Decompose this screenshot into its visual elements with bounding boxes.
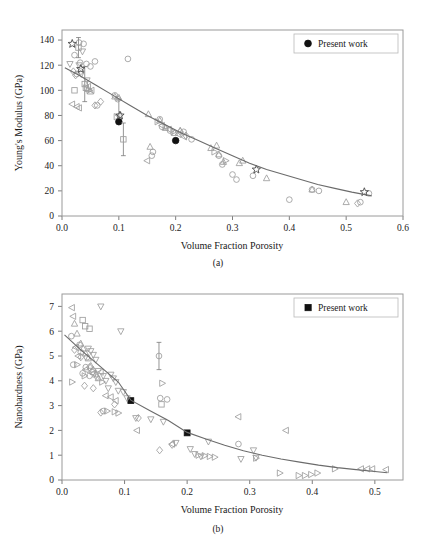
data-point-triangle-left — [358, 466, 364, 472]
y-tick-label: 100 — [40, 86, 55, 96]
panel-a-tick-labels: 0.00.10.20.30.40.50.6020406080100120140 — [40, 35, 409, 233]
data-point-triangle-right — [302, 472, 308, 478]
panel-b-frame — [62, 294, 403, 480]
data-point-triangle-right — [105, 408, 111, 414]
y-tick-label: 40 — [45, 161, 55, 171]
data-point-circle — [316, 188, 322, 194]
panel-b-legend-marker-filled-square — [305, 305, 311, 311]
panel-b-legend-label: Present work — [318, 303, 368, 313]
panel-b-subcaption: (b) — [212, 524, 223, 535]
y-tick-label: 0 — [49, 211, 54, 221]
panel-a-data-layer — [67, 38, 372, 207]
figure-container: 0.00.10.20.30.40.50.6020406080100120140 … — [0, 0, 436, 543]
data-point-triangle-up — [74, 330, 80, 336]
y-tick-label: 20 — [45, 186, 55, 196]
x-tick-label: 0.2 — [170, 223, 182, 233]
panel-b-plot-area: 0.00.10.20.30.40.501234567 Volume Fracti… — [0, 272, 436, 543]
y-tick-label: 60 — [45, 136, 55, 146]
data-point-triangle-down — [148, 417, 154, 423]
data-point-circle — [70, 362, 76, 368]
data-point-triangle-right — [70, 379, 76, 385]
data-point-triangle-right — [160, 380, 166, 386]
x-tick-label: 0.5 — [369, 487, 381, 497]
data-point-triangle-down — [67, 62, 73, 68]
x-tick-label: 0.0 — [56, 223, 68, 233]
data-point-star — [116, 111, 124, 119]
panel-a-x-axis-title: Volume Fraction Porosity — [181, 240, 284, 251]
y-tick-label: 1 — [49, 451, 54, 461]
data-point-triangle-right — [196, 452, 202, 458]
panel-a-subcaption: (a) — [213, 258, 224, 269]
y-tick-label: 140 — [40, 35, 55, 45]
data-point-diamond — [82, 382, 88, 389]
panel-b-data-layer — [69, 304, 389, 479]
panel-b-x-axis-title: Volume Fraction Porosity — [181, 504, 284, 515]
data-point-triangle-left — [75, 353, 81, 359]
panel-a-ticks — [58, 40, 403, 220]
data-point-triangle-right — [112, 409, 118, 415]
y-tick-label: 0 — [49, 475, 54, 485]
data-point-triangle-down — [79, 49, 85, 55]
x-tick-label: 0.4 — [306, 487, 318, 497]
data-point-triangle-down — [160, 419, 166, 425]
data-point-triangle-right — [100, 379, 106, 385]
data-point-triangle-right — [277, 470, 283, 476]
data-point-circle — [286, 197, 292, 203]
data-point-diamond — [98, 98, 104, 105]
data-point-circle — [234, 177, 240, 183]
panel-a-frame — [62, 30, 403, 216]
data-point-triangle-left — [69, 304, 75, 310]
panel-a-plot-area: 0.00.10.20.30.40.50.6020406080100120140 … — [0, 0, 436, 272]
data-point-circle — [125, 56, 131, 62]
data-point-square — [159, 402, 164, 407]
data-point-circle — [236, 441, 242, 447]
panel-a-legend-marker-filled-circle — [305, 40, 312, 47]
data-point-diamond — [90, 385, 96, 392]
y-tick-label: 120 — [40, 61, 55, 71]
panel-a-youngs-modulus: 0.00.10.20.30.40.50.6020406080100120140 … — [0, 0, 436, 272]
panel-a-legend: Present work — [294, 34, 398, 53]
data-point-circle — [92, 59, 98, 65]
data-point-square — [80, 317, 85, 322]
x-tick-label: 0.6 — [397, 223, 409, 233]
panel-b-legend: Present work — [294, 298, 398, 317]
panel-b-y-axis-title: Nanohardness (GPa) — [13, 345, 25, 428]
y-tick-label: 4 — [49, 376, 54, 386]
y-tick-label: 3 — [49, 401, 54, 411]
data-point-square — [72, 88, 77, 93]
data-point-triangle-up — [263, 175, 269, 181]
x-tick-label: 0.1 — [113, 223, 125, 233]
data-point-circle — [216, 153, 222, 159]
data-point-triangle-left — [283, 427, 289, 433]
data-point-circle — [72, 52, 78, 58]
data-point-triangle-down — [98, 304, 104, 310]
panel-b-fit-curve — [65, 335, 388, 473]
data-point-triangle-left — [235, 414, 241, 420]
data-point-triangle-up — [309, 186, 315, 192]
x-tick-label: 0.4 — [283, 223, 295, 233]
x-tick-label: 0.2 — [181, 487, 193, 497]
x-tick-label: 0.1 — [119, 487, 131, 497]
data-point-triangle-down — [118, 329, 124, 335]
data-point-triangle-right — [315, 470, 321, 476]
panel-a-svg: 0.00.10.20.30.40.50.6020406080100120140 … — [0, 0, 436, 272]
data-point-triangle-left — [134, 427, 140, 433]
x-tick-label: 0.5 — [340, 223, 352, 233]
y-tick-label: 5 — [49, 351, 54, 361]
panel-a-fit-curve — [65, 68, 372, 196]
data-point-triangle-down — [238, 457, 244, 463]
data-point-circle — [250, 173, 256, 179]
data-point-triangle-left — [383, 466, 389, 472]
panel-b-svg: 0.00.10.20.30.40.501234567 Volume Fracti… — [0, 272, 436, 543]
data-point-triangle-left — [70, 313, 76, 319]
data-point-circle — [164, 397, 170, 403]
data-point-triangle-right — [296, 472, 302, 478]
data-point-triangle-left — [102, 393, 108, 399]
data-point-circle — [230, 172, 236, 178]
data-point-triangle-up — [71, 320, 77, 326]
y-tick-label: 6 — [49, 327, 54, 337]
y-tick-label: 7 — [49, 302, 54, 312]
panel-b-nanohardness: 0.00.10.20.30.40.501234567 Volume Fracti… — [0, 272, 436, 543]
data-point-star — [68, 39, 76, 47]
present-work-point — [172, 137, 179, 144]
